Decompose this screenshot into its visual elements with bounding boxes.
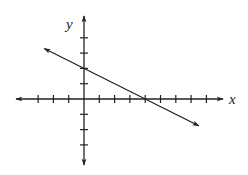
x-axis-label: x: [228, 91, 236, 107]
y-axis-label: y: [64, 16, 73, 32]
line-series: [44, 49, 199, 126]
coordinate-plane: x y: [0, 0, 248, 175]
x-axis: [16, 95, 223, 103]
y-axis: [80, 16, 88, 165]
